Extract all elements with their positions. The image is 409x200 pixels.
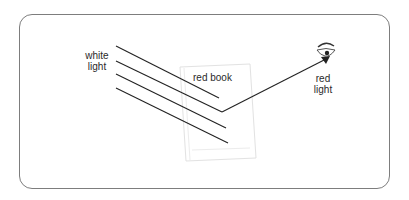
label-red-book: red book bbox=[193, 72, 232, 83]
label-white-light: white light bbox=[80, 50, 114, 72]
label-white: white bbox=[80, 50, 114, 61]
ray-diagram bbox=[0, 0, 409, 200]
label-red: red bbox=[309, 73, 337, 84]
label-light: light bbox=[80, 61, 114, 72]
incident-ray-2 bbox=[116, 61, 222, 112]
incident-rays bbox=[116, 46, 228, 143]
label-light-2: light bbox=[309, 84, 337, 95]
label-red-light: red light bbox=[309, 73, 337, 95]
eye-icon bbox=[317, 43, 335, 56]
incident-ray-4 bbox=[116, 88, 228, 143]
